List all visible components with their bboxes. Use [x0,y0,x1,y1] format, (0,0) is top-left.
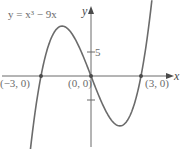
y-axis-arrow [88,6,94,14]
y-axis-label: y [81,4,88,18]
intercept-point [39,74,43,78]
y-tick-label: 5 [95,46,101,58]
point-label: (3, 0) [145,77,169,90]
x-axis-label: x [173,69,180,83]
point-label: (0, 0) [68,77,92,90]
equation-label: y = x³ − 9x [8,8,57,20]
intercept-point [139,74,143,78]
chart: 5 (−3, 0)(0, 0)(3, 0) y = x³ − 9x x y [0,0,185,149]
point-label: (−3, 0) [0,77,30,90]
